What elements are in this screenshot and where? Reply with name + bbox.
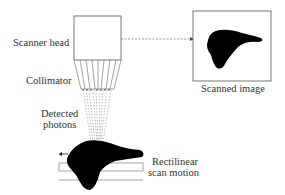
collimator [74, 60, 121, 89]
rectilinear-label-2: scan motion [148, 167, 199, 179]
scanner-diagram [0, 0, 285, 195]
motion-arrow-icon [59, 152, 63, 156]
scanner-head-box [74, 16, 121, 60]
scanner-head-label: Scanner head [13, 37, 69, 49]
scanned-image-label: Scanned image [201, 83, 265, 95]
collimator-label: Collimator [26, 75, 72, 87]
photon-rays [83, 90, 111, 142]
detected-photons-label-2: photons [43, 119, 76, 131]
